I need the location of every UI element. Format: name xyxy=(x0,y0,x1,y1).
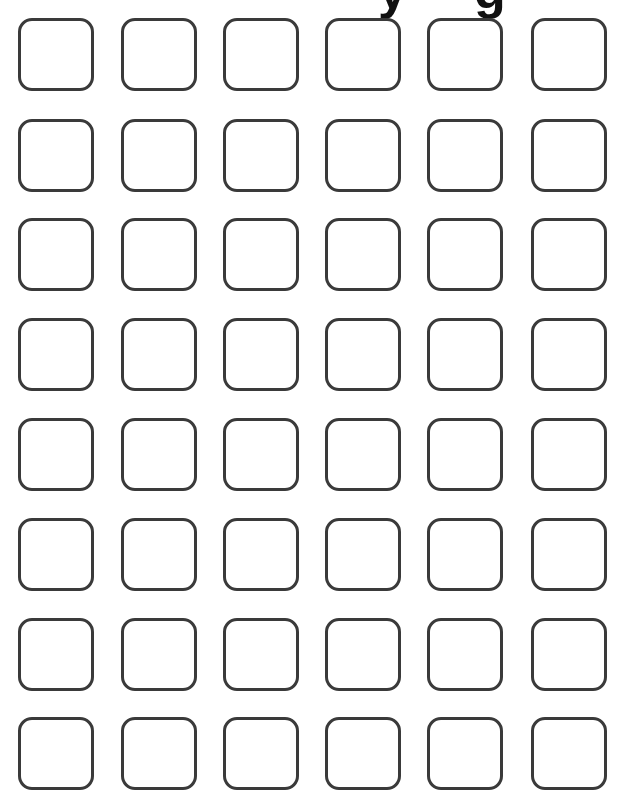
empty-box xyxy=(427,218,503,291)
empty-box xyxy=(427,119,503,192)
empty-box xyxy=(531,119,607,192)
empty-box xyxy=(223,418,299,491)
empty-box xyxy=(531,318,607,391)
empty-box xyxy=(427,518,503,591)
empty-box xyxy=(223,318,299,391)
title-fragment-g: g xyxy=(474,0,506,16)
empty-box xyxy=(223,119,299,192)
empty-box xyxy=(121,218,197,291)
title-fragment-y: y xyxy=(378,0,407,16)
empty-box xyxy=(121,717,197,790)
empty-box xyxy=(223,18,299,91)
empty-box xyxy=(18,418,94,491)
empty-box xyxy=(427,18,503,91)
empty-box xyxy=(325,618,401,691)
empty-box xyxy=(223,218,299,291)
empty-box xyxy=(121,418,197,491)
empty-box xyxy=(18,318,94,391)
empty-box xyxy=(18,618,94,691)
empty-box xyxy=(325,717,401,790)
empty-box xyxy=(531,717,607,790)
empty-box xyxy=(531,418,607,491)
empty-box xyxy=(223,518,299,591)
empty-box xyxy=(18,218,94,291)
empty-box xyxy=(325,119,401,192)
empty-box xyxy=(121,518,197,591)
empty-box xyxy=(223,717,299,790)
empty-box xyxy=(531,518,607,591)
empty-box xyxy=(121,318,197,391)
empty-box xyxy=(121,618,197,691)
empty-box xyxy=(18,518,94,591)
empty-box xyxy=(325,18,401,91)
empty-box xyxy=(427,418,503,491)
empty-box xyxy=(18,717,94,790)
empty-box xyxy=(531,618,607,691)
empty-box xyxy=(325,418,401,491)
empty-box xyxy=(18,119,94,192)
empty-box xyxy=(325,518,401,591)
empty-box xyxy=(531,218,607,291)
empty-box xyxy=(531,18,607,91)
empty-box xyxy=(18,18,94,91)
empty-box xyxy=(325,318,401,391)
empty-box xyxy=(427,717,503,790)
empty-box xyxy=(121,119,197,192)
empty-box xyxy=(427,318,503,391)
empty-box xyxy=(325,218,401,291)
empty-box xyxy=(427,618,503,691)
empty-box xyxy=(121,18,197,91)
empty-box xyxy=(223,618,299,691)
